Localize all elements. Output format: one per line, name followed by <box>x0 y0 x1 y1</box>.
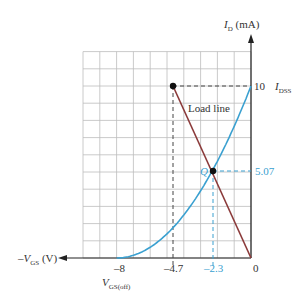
y-axis-arrow-icon <box>248 34 254 43</box>
y-tick-10: 10 <box>254 80 266 92</box>
vgs-off-label: VGS(off) <box>102 276 131 291</box>
jfet-transfer-chart: ID (mA) 10 IDSS 5.07 Load line Q –VGS (V… <box>0 0 303 299</box>
load-line-label: Load line <box>188 102 230 114</box>
x-tick-neg-8: –8 <box>113 262 126 274</box>
x-axis-label: –VGS (V) <box>17 252 58 267</box>
x-axis-arrow-icon <box>58 255 67 261</box>
x-tick-neg-2-3: –2.3 <box>203 262 224 274</box>
x-tick-neg-4-7: –4.7 <box>163 262 184 274</box>
q-label: Q <box>200 165 208 177</box>
x-tick-0: 0 <box>253 262 259 274</box>
load-line-start-point <box>170 83 176 89</box>
grid <box>83 52 251 258</box>
y-axis-label: ID (mA) <box>223 18 260 33</box>
idss-label: IDSS <box>274 80 292 95</box>
y-tick-5-07: 5.07 <box>255 165 275 177</box>
q-point <box>210 168 216 174</box>
